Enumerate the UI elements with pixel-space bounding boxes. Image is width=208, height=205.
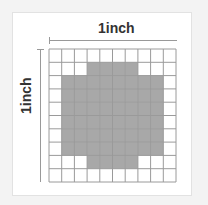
shaded-cell <box>125 76 138 89</box>
shaded-cell <box>100 129 113 142</box>
shaded-cell <box>151 76 164 89</box>
shaded-cell <box>138 76 151 89</box>
shaded-cell <box>113 62 126 75</box>
shaded-cell <box>74 129 87 142</box>
shaded-cell <box>138 102 151 115</box>
shaded-cell <box>62 116 75 129</box>
shaded-cell <box>113 116 126 129</box>
shaded-cell <box>151 102 164 115</box>
shaded-cell <box>87 102 100 115</box>
shaded-cell <box>100 62 113 75</box>
shaded-cell <box>87 89 100 102</box>
shaded-cell <box>62 76 75 89</box>
shaded-cell <box>125 142 138 155</box>
shaded-cell <box>138 89 151 102</box>
shaded-cell <box>151 129 164 142</box>
shaded-cell <box>125 62 138 75</box>
shaded-cell <box>100 89 113 102</box>
shaded-cell <box>125 102 138 115</box>
shaded-cell <box>87 62 100 75</box>
shaded-cell <box>74 142 87 155</box>
shaded-cell <box>100 142 113 155</box>
pixel-grid <box>0 0 208 205</box>
shaded-cell <box>125 89 138 102</box>
shaded-cell <box>113 89 126 102</box>
shaded-cell <box>100 102 113 115</box>
shaded-cell <box>125 155 138 168</box>
shaded-cell <box>151 116 164 129</box>
shaded-cell <box>151 89 164 102</box>
shaded-cell <box>74 89 87 102</box>
shaded-cell <box>113 155 126 168</box>
shaded-cell <box>113 102 126 115</box>
shaded-cell <box>87 76 100 89</box>
shaded-cell <box>87 129 100 142</box>
shaded-cell <box>125 129 138 142</box>
shaded-cell <box>151 142 164 155</box>
shaded-cell <box>62 89 75 102</box>
shaded-cell <box>87 142 100 155</box>
shaded-cell <box>74 116 87 129</box>
shaded-cell <box>87 155 100 168</box>
shaded-cell <box>100 76 113 89</box>
shaded-cell <box>125 116 138 129</box>
shaded-cell <box>87 116 100 129</box>
shaded-cell <box>62 102 75 115</box>
shaded-cell <box>62 129 75 142</box>
shaded-cell <box>74 76 87 89</box>
shaded-cell <box>113 142 126 155</box>
shaded-cell <box>100 116 113 129</box>
shaded-cell <box>138 129 151 142</box>
shaded-cell <box>113 129 126 142</box>
shaded-cell <box>74 102 87 115</box>
shaded-cell <box>62 142 75 155</box>
shaded-cell <box>113 76 126 89</box>
shaded-cell <box>100 155 113 168</box>
shaded-cell <box>138 142 151 155</box>
shaded-cell <box>138 116 151 129</box>
